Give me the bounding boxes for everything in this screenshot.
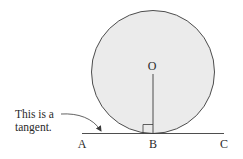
annotation-line-1: This is a <box>15 108 54 120</box>
label-center-o: O <box>148 59 157 73</box>
annotation-arrow <box>61 114 101 131</box>
annotation-line-2: tangent. <box>15 121 52 134</box>
tangent-diagram: O A B C This is a tangent. <box>0 0 243 159</box>
label-point-a: A <box>78 137 87 151</box>
label-point-c: C <box>220 137 228 151</box>
label-point-b: B <box>149 137 157 151</box>
